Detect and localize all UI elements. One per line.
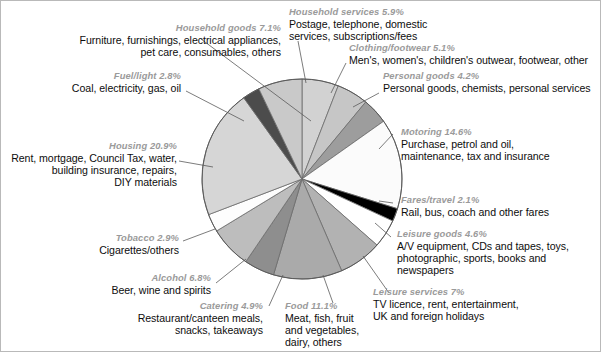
label-tobacco-heading: Tobacco 2.9% (41, 233, 179, 244)
label-alcohol-line1: Beer, wine and spirits (21, 284, 211, 296)
label-housing-line2: building insurance, repairs, (5, 164, 177, 176)
label-personal-goods-line1: Personal goods, chemists, personal servi… (383, 82, 601, 94)
label-tobacco-line1: Cigarettes/others (41, 244, 179, 256)
leader-food (323, 275, 333, 303)
label-food-line1: Meat, fish, fruit (285, 312, 385, 324)
label-tobacco: Tobacco 2.9% Cigarettes/others (41, 233, 179, 256)
label-clothing-footwear-heading: Clothing/footwear 5.1% (349, 43, 599, 54)
label-housing-line1: Rent, mortgage, Council Tax, water, (5, 152, 177, 164)
label-housing-heading: Housing 20.9% (5, 141, 177, 152)
label-catering-line1: Restaurant/canteen meals, (41, 312, 263, 324)
label-leisure-goods-line3: newspapers (397, 264, 597, 276)
label-household-services-line1: Postage, telephone, domestic (289, 18, 499, 30)
label-alcohol-heading: Alcohol 6.8% (21, 273, 211, 284)
label-leisure-services-line1: TV licence, rent, entertainment, (373, 298, 573, 310)
label-fuel-light-heading: Fuel/light 2.8% (41, 71, 181, 82)
label-personal-goods: Personal goods 4.2% Personal goods, chem… (383, 71, 601, 94)
label-food: Food 11.1% Meat, fish, fruit and vegetab… (285, 301, 385, 348)
leader-catering (269, 275, 283, 306)
label-household-services-line2: services, subscriptions/fees (289, 30, 499, 42)
label-household-goods-line2: pet care, consumables, others (25, 46, 281, 58)
label-fuel-light-line1: Coal, electricity, gas, oil (41, 82, 181, 94)
leader-alcohol (216, 259, 246, 283)
leader-tobacco (183, 229, 215, 241)
label-motoring-heading: Motoring 14.6% (401, 127, 593, 138)
pie-slices (202, 79, 402, 279)
label-leisure-goods-heading: Leisure goods 4.6% (397, 229, 597, 240)
label-alcohol: Alcohol 6.8% Beer, wine and spirits (21, 273, 211, 296)
label-fares-travel: Fares/travel 2.1% Rail, bus, coach and o… (401, 195, 591, 218)
label-leisure-services-heading: Leisure services 7% (373, 287, 573, 298)
label-housing: Housing 20.9% Rent, mortgage, Council Ta… (5, 141, 177, 188)
label-catering-heading: Catering 4.9% (41, 301, 263, 312)
label-leisure-services: Leisure services 7% TV licence, rent, en… (373, 287, 573, 322)
label-fares-travel-heading: Fares/travel 2.1% (401, 195, 591, 206)
label-food-line2: and vegetables, (285, 324, 385, 336)
label-fares-travel-line1: Rail, bus, coach and other fares (401, 206, 591, 218)
chart-frame: Household goods 7.1% Furniture, furnishi… (0, 0, 601, 352)
leader-household-services (298, 41, 306, 83)
label-leisure-goods-line2: photographic, sports, books and (397, 252, 597, 264)
label-leisure-goods: Leisure goods 4.6% A/V equipment, CDs an… (397, 229, 597, 276)
label-catering: Catering 4.9% Restaurant/canteen meals, … (41, 301, 263, 336)
label-clothing-footwear-line1: Men's, women's, children's outwear, foot… (349, 54, 599, 66)
label-leisure-goods-line1: A/V equipment, CDs and tapes, toys, (397, 240, 597, 252)
label-clothing-footwear: Clothing/footwear 5.1% Men's, women's, c… (349, 43, 599, 66)
label-household-services-heading: Household services 5.9% (289, 7, 499, 18)
label-leisure-services-line2: UK and foreign holidays (373, 310, 573, 322)
label-catering-line2: snacks, takeaways (41, 324, 263, 336)
label-food-heading: Food 11.1% (285, 301, 385, 312)
label-household-goods-heading: Household goods 7.1% (25, 23, 281, 34)
label-motoring-line2: maintenance, tax and insurance (401, 150, 593, 162)
label-household-services: Household services 5.9% Postage, telepho… (289, 7, 499, 42)
label-motoring-line1: Purchase, petrol and oil, (401, 138, 593, 150)
label-household-goods-line1: Furniture, furnishings, electrical appli… (25, 34, 281, 46)
label-fuel-light: Fuel/light 2.8% Coal, electricity, gas, … (41, 71, 181, 94)
label-personal-goods-heading: Personal goods 4.2% (383, 71, 601, 82)
label-food-line3: dairy, others (285, 336, 385, 348)
label-motoring: Motoring 14.6% Purchase, petrol and oil,… (401, 127, 593, 162)
label-household-goods: Household goods 7.1% Furniture, furnishi… (25, 23, 281, 58)
label-housing-line3: DIY materials (5, 176, 177, 188)
